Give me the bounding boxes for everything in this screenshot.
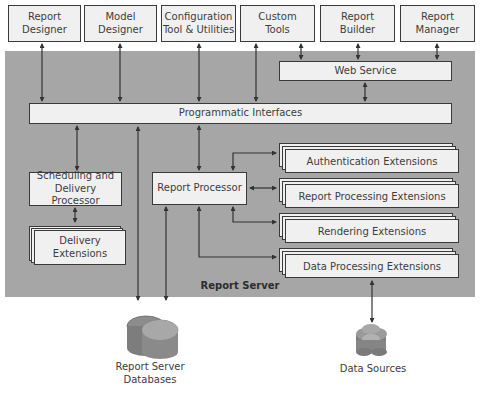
connector-lines — [0, 0, 481, 398]
database-icon — [127, 316, 178, 359]
label-line: Report Server — [105, 361, 195, 374]
report-server-databases-label: Report Server Databases — [105, 361, 195, 386]
label-line: Databases — [105, 374, 195, 387]
data-sources-label: Data Sources — [328, 363, 418, 376]
data-sources-icon — [356, 324, 387, 356]
